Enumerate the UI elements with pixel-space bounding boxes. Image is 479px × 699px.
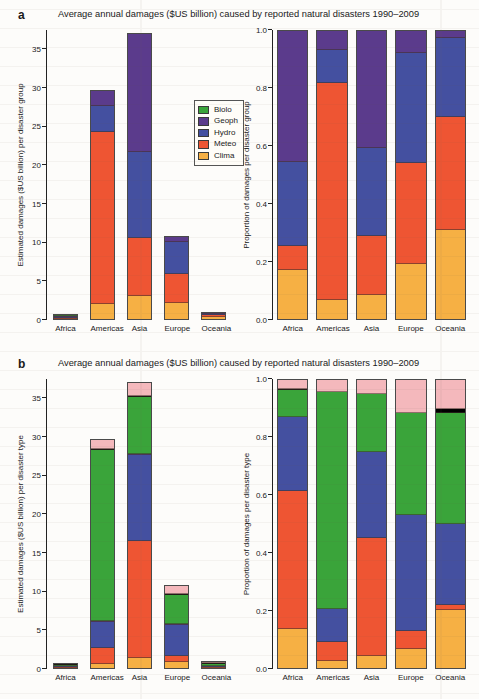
bar-segment-meteo[interactable] <box>165 274 187 303</box>
stacked-bar[interactable] <box>201 661 225 670</box>
bar-segment-storm[interactable] <box>357 394 387 452</box>
bar-segment-hydro[interactable] <box>278 162 308 246</box>
bar-segment-storm[interactable] <box>436 413 466 524</box>
bar-segment-earth[interactable] <box>91 648 113 664</box>
bar-segment-earth[interactable] <box>278 491 308 629</box>
stacked-bar[interactable] <box>53 314 77 320</box>
bar-segment-meteo[interactable] <box>278 246 308 270</box>
bar-segment-other[interactable] <box>436 380 466 409</box>
bar-segment-earth[interactable] <box>357 538 387 656</box>
bar-segment-earth[interactable] <box>54 667 76 668</box>
bar-column-asia[interactable] <box>127 379 151 669</box>
stacked-bar[interactable] <box>277 379 309 669</box>
bar-segment-hydro[interactable] <box>91 106 113 132</box>
bar-segment-clima[interactable] <box>202 317 224 319</box>
bar-segment-meteo[interactable] <box>91 132 113 304</box>
bar-segment-flood[interactable] <box>396 515 426 630</box>
stacked-bar[interactable] <box>127 33 151 320</box>
stacked-bar[interactable] <box>90 90 114 320</box>
bar-column-americas[interactable] <box>316 30 348 320</box>
bar-segment-hydro[interactable] <box>165 242 187 274</box>
bar-segment-storm[interactable] <box>278 390 308 417</box>
bar-column-africa[interactable] <box>277 379 309 669</box>
bar-column-asia[interactable] <box>127 30 151 320</box>
bar-column-oceania[interactable] <box>435 379 467 669</box>
bar-segment-clima[interactable] <box>396 264 426 319</box>
bar-segment-other[interactable] <box>165 586 187 595</box>
stacked-bar[interactable] <box>127 382 151 669</box>
bar-segment-hydro[interactable] <box>357 148 387 236</box>
bar-segment-geoph[interactable] <box>396 31 426 53</box>
bar-segment-clima[interactable] <box>91 304 113 319</box>
bar-segment-droug[interactable] <box>91 664 113 668</box>
bar-column-asia[interactable] <box>356 379 388 669</box>
bar-column-europe[interactable] <box>395 30 427 320</box>
bar-column-europe[interactable] <box>395 379 427 669</box>
bar-column-oceania[interactable] <box>201 379 225 669</box>
bar-segment-droug[interactable] <box>128 658 150 668</box>
bar-segment-meteo[interactable] <box>128 238 150 296</box>
stacked-bar[interactable] <box>53 663 77 669</box>
bar-segment-meteo[interactable] <box>396 163 426 264</box>
stacked-bar[interactable] <box>395 379 427 669</box>
bar-segment-meteo[interactable] <box>317 83 347 300</box>
bar-segment-geoph[interactable] <box>317 31 347 50</box>
bar-segment-clima[interactable] <box>317 300 347 319</box>
bar-segment-storm[interactable] <box>165 595 187 624</box>
bar-segment-clima[interactable] <box>278 270 308 319</box>
bar-column-africa[interactable] <box>277 30 309 320</box>
bar-segment-geoph[interactable] <box>357 31 387 148</box>
stacked-bar[interactable] <box>164 585 188 669</box>
stacked-bar[interactable] <box>395 30 427 320</box>
bar-segment-droug[interactable] <box>436 610 466 668</box>
bar-column-asia[interactable] <box>356 30 388 320</box>
bar-segment-clima[interactable] <box>436 230 466 319</box>
stacked-bar[interactable] <box>164 236 188 320</box>
bar-segment-meteo[interactable] <box>357 236 387 295</box>
bar-segment-clima[interactable] <box>165 303 187 319</box>
bar-column-europe[interactable] <box>164 379 188 669</box>
bar-segment-earth[interactable] <box>128 541 150 658</box>
bar-segment-other[interactable] <box>357 380 387 394</box>
bar-column-africa[interactable] <box>53 30 77 320</box>
bar-segment-storm[interactable] <box>91 450 113 621</box>
bar-segment-droug[interactable] <box>278 629 308 668</box>
stacked-bar[interactable] <box>435 379 467 669</box>
stacked-bar[interactable] <box>356 30 388 320</box>
bar-segment-meteo[interactable] <box>54 318 76 319</box>
bar-column-oceania[interactable] <box>435 30 467 320</box>
bar-segment-geoph[interactable] <box>436 31 466 38</box>
bar-segment-storm[interactable] <box>317 392 347 609</box>
bar-segment-other[interactable] <box>91 440 113 449</box>
bar-segment-storm[interactable] <box>128 397 150 454</box>
bar-segment-geoph[interactable] <box>128 34 150 152</box>
bar-segment-clima[interactable] <box>128 296 150 319</box>
bar-segment-other[interactable] <box>317 380 347 392</box>
bar-segment-droug[interactable] <box>396 649 426 668</box>
stacked-bar[interactable] <box>356 379 388 669</box>
bar-segment-droug[interactable] <box>357 656 387 668</box>
bar-segment-other[interactable] <box>396 380 426 413</box>
bar-segment-storm[interactable] <box>396 413 426 515</box>
bar-segment-geoph[interactable] <box>278 31 308 162</box>
bar-segment-earth[interactable] <box>317 642 347 661</box>
bar-segment-clima[interactable] <box>357 295 387 319</box>
bar-segment-droug[interactable] <box>165 662 187 668</box>
bar-segment-hydro[interactable] <box>317 50 347 83</box>
stacked-bar[interactable] <box>316 30 348 320</box>
bar-segment-flood[interactable] <box>165 625 187 656</box>
bar-segment-flood[interactable] <box>128 455 150 541</box>
bar-segment-hydro[interactable] <box>396 53 426 164</box>
bar-column-americas[interactable] <box>316 379 348 669</box>
bar-column-americas[interactable] <box>90 30 114 320</box>
bar-segment-droug[interactable] <box>317 661 347 668</box>
bar-segment-other[interactable] <box>128 383 150 396</box>
bar-column-oceania[interactable] <box>201 30 225 320</box>
bar-segment-hydro[interactable] <box>128 152 150 238</box>
bar-segment-meteo[interactable] <box>436 117 466 229</box>
stacked-bar[interactable] <box>435 30 467 320</box>
bar-segment-flood[interactable] <box>317 609 347 642</box>
bar-segment-earth[interactable] <box>396 631 426 650</box>
bar-column-europe[interactable] <box>164 30 188 320</box>
bar-segment-flood[interactable] <box>91 622 113 648</box>
